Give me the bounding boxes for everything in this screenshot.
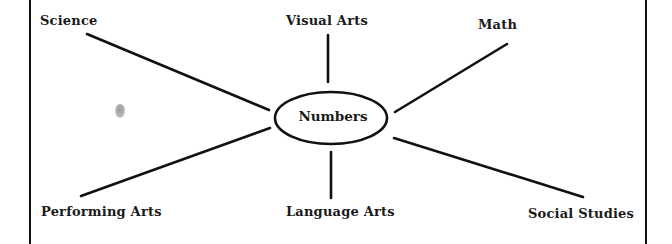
smudge-mark: [115, 104, 125, 118]
concept-web-diagram: Science Visual Arts Math Performing Arts…: [0, 0, 672, 244]
connector-performing-arts: [81, 128, 270, 196]
center-label-numbers: Numbers: [298, 110, 367, 124]
branch-label-social-studies: Social Studies: [528, 207, 634, 220]
connector-math: [395, 44, 507, 112]
connector-science: [87, 34, 269, 110]
connector-social-studies: [394, 138, 583, 197]
branch-label-science: Science: [40, 14, 98, 27]
branch-label-performing-arts: Performing Arts: [41, 205, 162, 218]
branch-label-math: Math: [478, 18, 517, 31]
branch-label-visual-arts: Visual Arts: [286, 14, 368, 27]
branch-label-language-arts: Language Arts: [286, 205, 395, 218]
